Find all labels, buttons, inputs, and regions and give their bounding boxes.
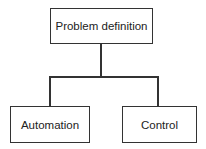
child-node-control: Control [122,106,197,143]
child-node-label: Control [141,119,178,131]
connector-left-down [49,76,51,106]
child-node-label: Automation [21,119,79,131]
connector-right-down [157,76,159,106]
root-node-label: Problem definition [55,20,147,32]
child-node-automation: Automation [10,106,90,143]
root-node: Problem definition [50,8,153,44]
connector-horizontal [49,76,158,78]
connector-root-down [100,44,102,77]
